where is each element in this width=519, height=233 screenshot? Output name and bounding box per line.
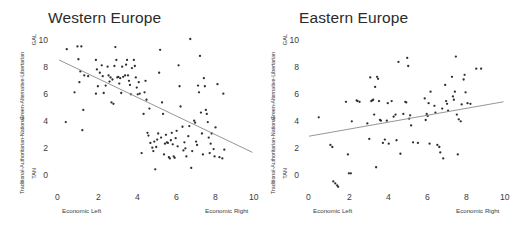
panel-eastern-europe: Eastern Europe Green-Alternative-Liberta…: [259, 0, 518, 233]
data-point: [405, 101, 407, 103]
data-point: [464, 91, 466, 93]
data-point: [350, 172, 352, 174]
data-point: [143, 91, 145, 93]
data-point: [151, 147, 153, 149]
data-point: [203, 77, 205, 79]
data-point: [165, 134, 167, 136]
data-point: [144, 80, 146, 82]
data-point: [96, 68, 98, 70]
data-point: [439, 151, 441, 153]
data-point: [463, 74, 465, 76]
data-point: [456, 113, 458, 115]
data-point: [167, 142, 169, 144]
data-point: [73, 91, 75, 93]
data-point: [109, 76, 111, 78]
data-point: [392, 115, 394, 117]
data-points-western-europe: [65, 38, 226, 171]
data-point: [452, 95, 454, 97]
data-point: [391, 100, 393, 102]
data-point: [370, 100, 372, 102]
data-point: [417, 142, 419, 144]
data-point: [153, 140, 155, 142]
data-point: [382, 142, 384, 144]
data-point: [184, 147, 186, 149]
data-point: [337, 186, 339, 188]
data-point: [198, 91, 200, 93]
data-point: [369, 76, 371, 78]
data-point: [76, 45, 78, 47]
data-point: [441, 107, 443, 109]
data-point: [444, 84, 446, 86]
data-point: [182, 149, 184, 151]
data-point: [196, 144, 198, 146]
data-point: [95, 59, 97, 61]
data-point: [108, 80, 110, 82]
data-point: [148, 107, 150, 109]
data-point: [210, 142, 212, 144]
data-point: [406, 57, 408, 59]
data-point: [119, 77, 121, 79]
data-point: [462, 78, 464, 80]
data-point: [183, 141, 185, 143]
data-point: [384, 138, 386, 140]
data-point: [147, 134, 149, 136]
data-point: [197, 84, 199, 86]
data-point: [145, 99, 147, 101]
data-point: [131, 67, 133, 69]
data-point: [207, 121, 209, 123]
data-point: [366, 122, 368, 124]
data-point: [223, 149, 225, 151]
data-point: [372, 99, 374, 101]
data-point: [157, 132, 159, 134]
data-point: [65, 121, 67, 123]
data-point: [158, 72, 160, 74]
data-point: [162, 113, 164, 115]
data-point: [81, 129, 83, 131]
data-point: [117, 76, 119, 78]
data-point: [200, 111, 202, 113]
data-point: [212, 148, 214, 150]
data-point: [66, 48, 68, 50]
data-point: [222, 93, 224, 95]
data-point: [83, 74, 85, 76]
data-point: [124, 74, 126, 76]
data-point: [163, 153, 165, 155]
data-point: [115, 59, 117, 61]
data-point: [146, 132, 148, 134]
data-point: [179, 105, 181, 107]
data-point: [181, 126, 183, 128]
trendline-western-europe: [59, 60, 253, 152]
data-point: [80, 45, 82, 47]
data-point: [187, 135, 189, 137]
data-point: [154, 168, 156, 170]
data-point: [208, 136, 210, 138]
data-point: [201, 132, 203, 134]
data-point: [376, 76, 378, 78]
panel-western-europe: Western Europe Green-Alternative-Liberta…: [0, 0, 259, 233]
data-point: [191, 150, 193, 152]
data-point: [125, 64, 127, 66]
data-point: [347, 153, 349, 155]
data-point: [136, 86, 138, 88]
data-point: [193, 120, 195, 122]
data-point: [466, 102, 468, 104]
data-point: [451, 76, 453, 78]
data-point: [331, 146, 333, 148]
data-point: [185, 155, 187, 157]
data-point: [134, 65, 136, 67]
data-point: [475, 68, 477, 70]
data-point: [188, 125, 190, 127]
data-point: [388, 142, 390, 144]
data-point: [177, 64, 179, 66]
data-point: [334, 182, 336, 184]
data-point: [176, 145, 178, 147]
data-point: [209, 152, 211, 154]
data-point: [374, 86, 376, 88]
data-point: [172, 143, 174, 145]
data-point: [318, 116, 320, 118]
data-point: [195, 140, 197, 142]
data-point: [356, 100, 358, 102]
scatter-plot-figure: Western Europe Green-Alternative-Liberta…: [0, 0, 519, 233]
data-point: [445, 100, 447, 102]
data-point: [160, 136, 162, 138]
